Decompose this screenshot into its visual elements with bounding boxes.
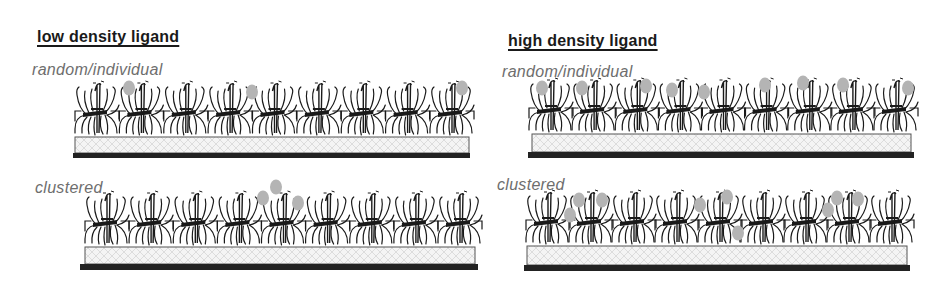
substrate-low-clustered bbox=[80, 247, 478, 270]
ligand-icon bbox=[536, 81, 548, 96]
receptor-icon bbox=[350, 191, 394, 245]
ligand-icon bbox=[576, 81, 588, 96]
ligand-icon bbox=[257, 191, 269, 206]
receptor-icon bbox=[386, 81, 430, 135]
ligands-low-random bbox=[123, 81, 468, 100]
ligand-icon bbox=[123, 81, 135, 96]
ligand-icon bbox=[797, 76, 809, 91]
receptor-icon bbox=[129, 191, 173, 245]
receptor-icon bbox=[85, 191, 129, 245]
ligand-icon bbox=[902, 81, 914, 96]
ligand-icon bbox=[732, 226, 744, 241]
ligand-icon bbox=[694, 198, 706, 213]
receptor-icon bbox=[526, 190, 570, 244]
ligand-icon bbox=[270, 180, 282, 195]
ligand-icon bbox=[698, 85, 710, 100]
receptor-icon bbox=[615, 78, 659, 132]
receptor-icon bbox=[253, 81, 297, 135]
receptor-icon bbox=[658, 78, 702, 132]
receptor-icon bbox=[438, 191, 482, 245]
receptor-icon bbox=[306, 191, 350, 245]
receptor-icon bbox=[741, 190, 785, 244]
substrate-high-random bbox=[528, 134, 914, 158]
receptor-icon bbox=[297, 81, 341, 135]
receptor-icon bbox=[164, 81, 208, 135]
ligand-icon bbox=[837, 78, 849, 93]
ligand-icon bbox=[759, 78, 771, 93]
diagram-canvas bbox=[0, 0, 943, 286]
ligand-icon bbox=[822, 203, 834, 218]
ligand-icon bbox=[564, 208, 576, 223]
ligand-icon bbox=[596, 193, 608, 208]
receptor-icon bbox=[217, 191, 261, 245]
ligand-icon bbox=[292, 196, 304, 211]
ligand-icon bbox=[640, 79, 652, 94]
ligand-icon bbox=[852, 192, 864, 207]
receptor-icon bbox=[75, 81, 119, 135]
receptor-icon bbox=[788, 78, 832, 132]
ligand-icon bbox=[721, 190, 733, 205]
receptor-icon bbox=[394, 191, 438, 245]
ligand-icon bbox=[666, 83, 678, 98]
receptor-icon bbox=[702, 78, 746, 132]
receptor-icon bbox=[870, 190, 914, 244]
ligand-icon bbox=[246, 85, 258, 100]
receptor-icon bbox=[341, 81, 385, 135]
receptor-icon bbox=[784, 190, 828, 244]
receptor-icon bbox=[529, 78, 573, 132]
receptor-icon bbox=[208, 81, 252, 135]
receptor-icon bbox=[655, 190, 699, 244]
substrate-low-random bbox=[73, 137, 470, 158]
ligand-icon bbox=[573, 193, 585, 208]
receptor-icon bbox=[173, 191, 217, 245]
substrate-high-clustered bbox=[524, 246, 910, 271]
receptor-row-low-clustered bbox=[85, 191, 482, 245]
ligand-icon bbox=[456, 81, 468, 96]
ligand-icon bbox=[831, 191, 843, 206]
receptor-icon bbox=[612, 190, 656, 244]
